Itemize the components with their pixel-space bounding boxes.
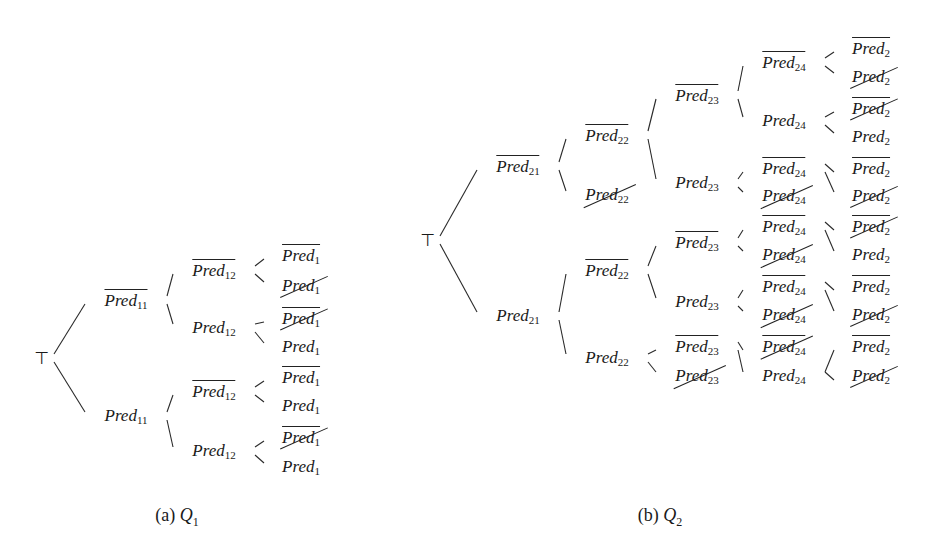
node-subscript: 2: [884, 225, 890, 237]
tree-node-negated-pred12: Pred12: [192, 259, 235, 281]
node-subscript: 23: [708, 345, 719, 357]
node-base: Pred: [675, 292, 707, 311]
caption-label: (b): [638, 505, 659, 525]
node-label: Pred1: [282, 307, 320, 329]
node-base: Pred: [762, 337, 794, 356]
tree-node-pred21: Pred21: [496, 307, 539, 326]
node-subscript: 22: [618, 269, 629, 281]
node-base: Pred: [852, 305, 884, 324]
caption-subscript: 2: [676, 515, 682, 529]
node-base: Pred: [282, 276, 314, 295]
node-base: Pred: [192, 382, 224, 401]
node-subscript: 1: [314, 404, 320, 416]
node-base: Pred: [852, 39, 884, 58]
tree-edge: [255, 259, 264, 266]
node-label: Pred1: [282, 244, 320, 266]
tree-edge: [255, 455, 264, 463]
node-label: Pred23: [675, 335, 718, 357]
tree-node-pred2-pruned: Pred2: [852, 306, 890, 325]
tree-edge: [825, 125, 834, 133]
node-subscript: 1: [314, 345, 320, 357]
node-label: Pred1: [282, 426, 320, 448]
node-label: Pred24: [762, 367, 805, 386]
tree-node-negated-pred24: Pred24: [762, 157, 805, 179]
tree-edge: [255, 332, 264, 343]
node-label: Pred2: [852, 157, 890, 179]
tree-edge: [825, 172, 834, 192]
tree-edge: [255, 395, 264, 402]
tree-node-negated-pred2-pruned: Pred2: [852, 215, 890, 237]
node-label: Pred1: [282, 397, 320, 416]
tree-node-negated-pred24-pruned: Pred24: [762, 335, 805, 357]
tree-edge: [255, 322, 264, 324]
node-base: Pred: [104, 406, 136, 425]
node-base: Pred: [282, 368, 314, 387]
tree-edge: [738, 306, 743, 311]
tree-edge: [440, 170, 477, 236]
caption-a: (a) Q1: [155, 505, 198, 530]
node-label: Pred2: [852, 335, 890, 357]
tree-node-pred2-pruned: Pred2: [852, 187, 890, 206]
tree-node-pred2-pruned: Pred2: [852, 68, 890, 87]
node-label: Pred22: [585, 349, 628, 368]
tree-node-pred2: Pred2: [852, 128, 890, 147]
tree-edge: [738, 172, 743, 179]
node-base: Pred: [852, 127, 884, 146]
node-subscript: 11: [137, 414, 148, 426]
node-label: Pred2: [852, 367, 890, 386]
tree-edge: [825, 282, 834, 290]
node-label: Pred1: [282, 458, 320, 477]
tree-node-negated-pred22: Pred22: [585, 259, 628, 281]
node-label: Pred2: [852, 275, 890, 297]
tree-node-negated-pred1: Pred1: [282, 244, 320, 266]
node-subscript: 2: [884, 107, 890, 119]
tree-edge: [825, 66, 834, 73]
tree-node-negated-pred2: Pred2: [852, 157, 890, 179]
tree-edge: [559, 274, 566, 312]
node-base: Pred: [762, 277, 794, 296]
node-label: Pred12: [192, 259, 235, 281]
node-subscript: 1: [314, 317, 320, 329]
tree-edge: [648, 99, 656, 131]
tree-node-pred23: Pred23: [675, 293, 718, 312]
node-base: Pred: [282, 428, 314, 447]
node-subscript: 24: [795, 345, 806, 357]
tree-edge: [825, 350, 834, 372]
node-subscript: 24: [795, 167, 806, 179]
node-subscript: 24: [795, 119, 806, 131]
tree-edge: [648, 246, 656, 266]
node-subscript: 23: [708, 300, 719, 312]
tree-edge: [825, 52, 834, 58]
tree-edge: [167, 420, 173, 447]
tree-node-negated-pred2: Pred2: [852, 335, 890, 357]
node-subscript: 2: [884, 374, 890, 386]
tree-edge: [559, 320, 566, 354]
node-label: Pred2: [852, 187, 890, 206]
node-base: Pred: [762, 111, 794, 130]
tree-edge: [738, 246, 743, 251]
node-base: Pred: [852, 99, 884, 118]
node-base: Pred: [104, 291, 136, 310]
tree-node-negated-pred24: Pred24: [762, 51, 805, 73]
tree-edge: [54, 362, 85, 412]
node-base: Pred: [852, 186, 884, 205]
tree-node-pred23-pruned: Pred23: [675, 367, 718, 386]
tree-edge: [738, 187, 743, 192]
node-base: Pred: [762, 245, 794, 264]
tree-node-negated-pred11: Pred11: [104, 289, 147, 311]
node-subscript: 2: [884, 75, 890, 87]
node-base: Pred: [675, 337, 707, 356]
node-subscript: 1: [314, 376, 320, 388]
caption-variable: Q: [180, 505, 193, 525]
node-base: Pred: [675, 366, 707, 385]
node-label: Pred2: [852, 128, 890, 147]
node-label: Pred12: [192, 380, 235, 402]
node-label: Pred24: [762, 215, 805, 237]
tree-node-negated-pred23: Pred23: [675, 84, 718, 106]
node-base: Pred: [282, 246, 314, 265]
tree-edge: [825, 290, 834, 311]
node-base: Pred: [675, 86, 707, 105]
node-label: Pred12: [192, 442, 235, 461]
node-subscript: 2: [884, 253, 890, 265]
node-label: Pred23: [675, 174, 718, 193]
